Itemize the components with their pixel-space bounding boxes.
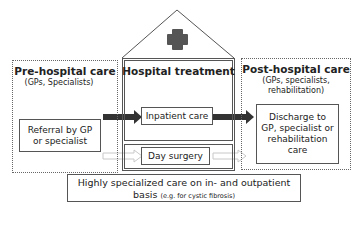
discharge-line-1: Discharge to: [269, 112, 326, 123]
referral-box: Referral by GP or specialist: [19, 119, 101, 152]
specialized-care-box: Highly specialized care on in- and outpa…: [67, 174, 301, 202]
discharge-line-4: care: [288, 145, 308, 156]
pre-hospital-subtitle: (GPs, Specialists): [12, 78, 106, 88]
referral-line-2: or specialist: [33, 136, 87, 147]
specialized-line-2: basis (e.g. for cystic fibrosis): [68, 189, 300, 202]
discharge-line-2: GP, specialist or: [261, 123, 333, 134]
specialized-basis: basis: [133, 189, 157, 200]
post-hospital-subtitle-1: (GPs, specialists,: [241, 76, 351, 86]
day-surgery-box: Day surgery: [141, 147, 210, 165]
medical-cross-icon: [167, 29, 188, 50]
pre-hospital-title: Pre-hospital care: [12, 65, 118, 77]
specialized-example: (e.g. for cystic fibrosis): [160, 192, 235, 200]
post-hospital-title: Post-hospital care: [241, 63, 351, 75]
hospital-title: Hospital treatment: [122, 65, 235, 77]
discharge-line-3: rehabilitation: [268, 134, 328, 145]
referral-line-1: Referral by GP: [28, 125, 93, 136]
discharge-box: Discharge to GP, specialist or rehabilit…: [256, 104, 339, 164]
post-hospital-subtitle-2: rehabilitation): [241, 86, 351, 96]
specialized-line-1: Highly specialized care on in- and outpa…: [68, 177, 300, 189]
inpatient-care-box: Inpatient care: [141, 107, 213, 125]
